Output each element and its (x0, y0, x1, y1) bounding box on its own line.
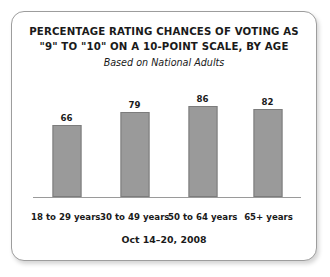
bar (253, 109, 282, 197)
bar-value-label: 79 (129, 100, 141, 110)
bar (52, 125, 81, 197)
x-axis-tick-label: 65+ years (235, 212, 302, 222)
x-axis-line (33, 197, 301, 198)
bar-group: 66 (33, 86, 100, 197)
bar (188, 106, 217, 197)
chart-card: PERCENTAGE RATING CHANCES OF VOTING AS "… (11, 11, 317, 261)
plot-area: 66 79 86 82 (33, 86, 301, 198)
bar-group: 82 (234, 86, 301, 197)
bar-group: 79 (101, 86, 168, 197)
x-axis-tick-label: 30 to 49 years (100, 212, 167, 222)
chart-screenshot: PERCENTAGE RATING CHANCES OF VOTING AS "… (0, 0, 330, 277)
chart-title-line-1: PERCENTAGE RATING CHANCES OF VOTING AS (12, 25, 316, 40)
bar-value-label: 66 (61, 113, 73, 123)
bar (120, 112, 149, 197)
chart-footer-date: Oct 14–20, 2008 (12, 234, 316, 245)
x-axis-category-labels: 18 to 29 years 30 to 49 years 50 to 64 y… (33, 212, 301, 226)
bar-group: 86 (169, 86, 236, 197)
x-axis-tick-label: 50 to 64 years (168, 212, 235, 222)
x-axis-tick-label: 18 to 29 years (31, 212, 98, 222)
chart-subtitle: Based on National Adults (12, 56, 316, 69)
chart-title-block: PERCENTAGE RATING CHANCES OF VOTING AS "… (12, 25, 316, 69)
bar-value-label: 86 (197, 94, 209, 104)
chart-title-line-2: "9" TO "10" ON A 10-POINT SCALE, BY AGE (12, 40, 316, 55)
bar-value-label: 82 (262, 97, 274, 107)
